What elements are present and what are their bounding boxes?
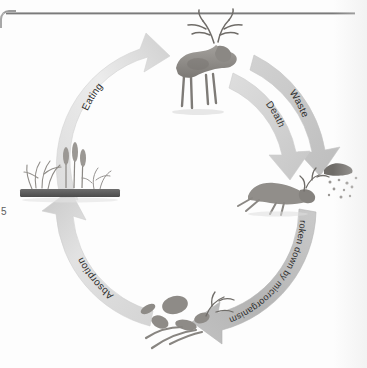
- soil-bar: [20, 189, 120, 197]
- grass-tufts: [24, 161, 61, 189]
- page-edge-shadow: [333, 0, 367, 368]
- arrow-death: Death: [229, 73, 310, 180]
- wheat-stalks: [63, 142, 86, 188]
- bone-shards: [146, 327, 202, 348]
- shrub: [82, 168, 111, 189]
- antlers-icon: [188, 9, 242, 43]
- figure-canvas: 5: [0, 0, 367, 368]
- illustration-dead-deer: [238, 168, 329, 217]
- arrow-absorption: Absorption: [42, 190, 153, 326]
- arrow-eating: Eating: [56, 33, 170, 200]
- nutrient-cycle-diagram: Eating Waste Death Broken down by microo…: [0, 0, 367, 368]
- illustration-live-deer: [172, 9, 242, 115]
- deer-legs: [182, 74, 216, 108]
